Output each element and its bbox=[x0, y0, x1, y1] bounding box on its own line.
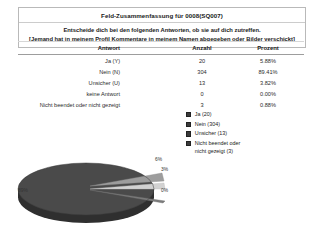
column-header-count: Anzahl bbox=[172, 42, 232, 55]
cell-percent: 0.88% bbox=[232, 100, 304, 111]
legend-swatch-icon bbox=[186, 131, 191, 136]
legend-item: Ja (20) bbox=[186, 110, 240, 118]
table-header-row: Antwort Anzahl Prozent bbox=[18, 42, 304, 55]
legend-label: Unsicher (13) bbox=[195, 129, 227, 137]
table-row: Nein (N) 304 89.41% bbox=[18, 66, 304, 77]
table-row: Unsicher (U) 13 3.82% bbox=[18, 77, 304, 88]
table-row: Ja (Y) 20 5.88% bbox=[18, 55, 304, 67]
cell-percent: 3.82% bbox=[232, 77, 304, 88]
cell-answer: Unsicher (U) bbox=[18, 77, 172, 88]
cell-percent: 0.00% bbox=[232, 89, 304, 100]
cell-percent: 89.41% bbox=[232, 66, 304, 77]
table-body: Ja (Y) 20 5.88% Nein (N) 304 89.41% Unsi… bbox=[18, 55, 304, 111]
pie-label-unsicher: 3% bbox=[161, 167, 168, 172]
pie-label-nein: 89% bbox=[18, 188, 28, 193]
pie-label-nicht-beendet: 0% bbox=[161, 188, 168, 193]
cell-answer: Nein (N) bbox=[18, 66, 172, 77]
cell-count: 20 bbox=[172, 55, 232, 67]
legend-label: Nein (304) bbox=[195, 120, 220, 128]
cell-count: 304 bbox=[172, 66, 232, 77]
page-title: Feld-Zusammenfassung für 0008(SQ007) bbox=[19, 8, 305, 23]
column-header-answer: Antwort bbox=[18, 42, 172, 55]
legend-item: Nein (304) bbox=[186, 120, 240, 128]
table-row: Nicht beendet oder nicht gezeigt 3 0.88% bbox=[18, 100, 304, 111]
cell-percent: 5.88% bbox=[232, 55, 304, 67]
cell-count: 0 bbox=[172, 89, 232, 100]
legend-item: Unsicher (13) bbox=[186, 129, 240, 137]
cell-count: 13 bbox=[172, 77, 232, 88]
table-header: Antwort Anzahl Prozent bbox=[18, 42, 304, 55]
cell-answer: keine Antwort bbox=[18, 89, 172, 100]
field-summary-page: Feld-Zusammenfassung für 0008(SQ007) Ent… bbox=[0, 0, 322, 241]
cell-answer: Nicht beendet oder nicht gezeigt bbox=[18, 100, 172, 111]
question-line-1: Entscheide dich bei den folgenden Antwor… bbox=[63, 27, 260, 33]
results-table: Antwort Anzahl Prozent Ja (Y) 20 5.88% N… bbox=[18, 41, 304, 111]
pie-chart: 89% 6% 3% 0% bbox=[16, 143, 216, 235]
pie-chart-svg bbox=[16, 143, 216, 235]
legend-swatch-icon bbox=[186, 122, 191, 127]
legend-swatch-icon bbox=[186, 112, 191, 117]
column-header-percent: Prozent bbox=[232, 42, 304, 55]
cell-answer: Ja (Y) bbox=[18, 55, 172, 67]
table-row: keine Antwort 0 0.00% bbox=[18, 89, 304, 100]
pie-label-ja: 6% bbox=[155, 157, 162, 162]
legend-label: Ja (20) bbox=[195, 110, 212, 118]
